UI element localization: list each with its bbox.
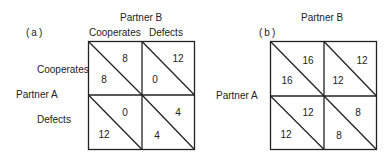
payoff-b-cd: 12 bbox=[356, 55, 367, 67]
payoff-b-dd: 8 bbox=[355, 107, 361, 119]
payoff-b-dc: 12 bbox=[302, 107, 313, 119]
payoff-a-cd: 12 bbox=[332, 75, 343, 87]
payoff-a-dd: 8 bbox=[336, 130, 342, 142]
payoff-b-cc: 16 bbox=[302, 55, 313, 67]
payoff-a-dc: 12 bbox=[280, 129, 291, 141]
payoff-a-cc: 16 bbox=[281, 75, 292, 87]
